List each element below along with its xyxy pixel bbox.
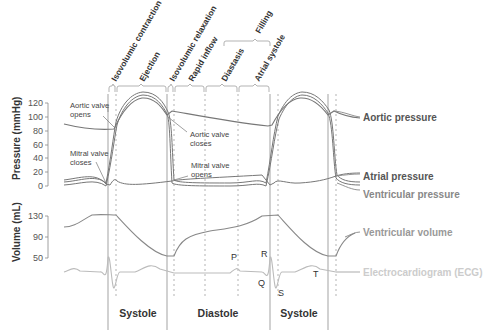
annotation-aortic-opens: Aortic valve — [70, 101, 109, 110]
phase-isovolumic-contraction: Isovolumic contraction — [109, 0, 164, 83]
legend-ventricular-pressure: Ventricular pressure — [363, 189, 460, 200]
ecg-r-label: R — [261, 249, 268, 259]
pressure-tick: 0 — [38, 181, 43, 191]
annotation-aortic-opens: opens — [70, 110, 91, 119]
legend-ecg: Electrocardiogram (ECG) — [363, 267, 482, 278]
pressure-tick: 60 — [33, 140, 43, 150]
cycle-systole-1: Systole — [119, 307, 157, 319]
ecg-p-label: P — [231, 252, 237, 262]
ecg-t-label: T — [313, 269, 319, 279]
pressure-tick: 20 — [33, 167, 43, 177]
legend-aortic-pressure: Aortic pressure — [363, 112, 437, 123]
phase-filling: Filling — [253, 9, 274, 35]
pressure-axis: Pressure (mmHg) 120 100 80 60 40 20 0 — [11, 97, 48, 191]
volume-axis: Volume (mL) 130 90 50 — [11, 202, 48, 263]
cycle-diastole: Diastole — [198, 307, 239, 319]
annotation-mitral-closes: Mitral valve — [70, 149, 108, 158]
annotation-aortic-closes: closes — [190, 139, 212, 148]
annotation-mitral-opens: opens — [191, 170, 212, 179]
legend-leaders — [334, 111, 360, 272]
pressure-tick: 100 — [28, 112, 43, 122]
phase-labels: Isovolumic contraction Ejection Isovolum… — [109, 0, 287, 83]
wiggers-diagram: Isovolumic contraction Ejection Isovolum… — [0, 0, 488, 334]
ecg-s-label: S — [278, 288, 284, 298]
annotation-aortic-closes: Aortic valve — [190, 130, 229, 139]
annotation-mitral-opens: Mitral valve — [191, 161, 229, 170]
pressure-axis-label: Pressure (mmHg) — [11, 97, 22, 180]
ecg-q-label: Q — [258, 278, 265, 288]
volume-tick: 130 — [28, 211, 43, 221]
pressure-tick: 80 — [33, 126, 43, 136]
annotation-mitral-closes: closes — [70, 158, 92, 167]
legend-atrial-pressure: Atrial pressure — [363, 171, 434, 182]
volume-axis-label: Volume (mL) — [11, 202, 22, 262]
valve-annotations: Aortic valve opens Mitral valve closes A… — [70, 101, 229, 183]
cycle-systole-2: Systole — [280, 307, 318, 319]
phase-ejection: Ejection — [137, 50, 162, 83]
legend-ventricular-volume: Ventricular volume — [363, 227, 453, 238]
phase-atrial-systole: Atrial systole — [252, 32, 287, 83]
pressure-tick: 120 — [28, 98, 43, 108]
pressure-tick: 40 — [33, 153, 43, 163]
phase-diastasis: Diastasis — [219, 46, 246, 83]
volume-tick: 90 — [33, 232, 43, 242]
volume-tick: 50 — [33, 253, 43, 263]
